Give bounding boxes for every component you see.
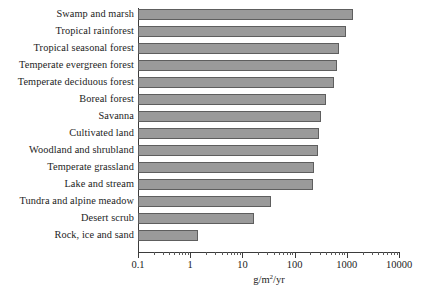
x-tick-minor (394, 252, 395, 255)
category-label: Tropical rainforest (56, 25, 134, 37)
x-tick-minor (326, 252, 327, 255)
x-axis: 0.1110100100010000 (138, 252, 400, 254)
x-tick-minor (292, 252, 293, 255)
x-axis-title-text: g/m2/yr (253, 274, 285, 285)
category-label: Temperate evergreen forest (19, 59, 134, 71)
category-label: Lake and stream (64, 178, 134, 190)
category-label: Temperate grassland (47, 161, 134, 173)
x-tick-minor (182, 252, 183, 255)
x-tick-label: 10 (237, 259, 248, 271)
x-tick-minor (222, 252, 223, 255)
x-tick-major (295, 252, 296, 258)
bar (138, 162, 314, 173)
x-tick-minor (387, 252, 388, 255)
x-tick-major (242, 252, 243, 258)
bar (138, 213, 254, 224)
x-tick-minor (154, 252, 155, 255)
x-tick-minor (274, 252, 275, 255)
bar (138, 77, 334, 88)
bar (138, 111, 321, 122)
x-tick-minor (258, 252, 259, 255)
bar (138, 60, 337, 71)
x-tick-major (399, 252, 400, 258)
category-label: Boreal forest (79, 93, 134, 105)
bar (138, 43, 339, 54)
x-tick-minor (283, 252, 284, 255)
x-tick-minor (174, 252, 175, 255)
bar (138, 230, 198, 241)
category-label: Tropical seasonal forest (34, 42, 134, 54)
category-axis-labels: Swamp and marshTropical rainforestTropic… (0, 0, 136, 252)
category-label: Woodland and shrubland (29, 144, 134, 156)
x-tick-minor (372, 252, 373, 255)
bar (138, 128, 319, 139)
x-axis-title: g/m2/yr (138, 274, 400, 285)
x-tick-minor (397, 252, 398, 255)
x-tick-minor (215, 252, 216, 255)
x-tick-minor (335, 252, 336, 255)
x-tick-major (347, 252, 348, 258)
x-tick-minor (206, 252, 207, 255)
x-tick-minor (227, 252, 228, 255)
x-tick-minor (267, 252, 268, 255)
x-tick-minor (240, 252, 241, 255)
category-label: Savanna (98, 110, 134, 122)
x-tick-minor (310, 252, 311, 255)
bar (138, 26, 346, 37)
category-label: Desert scrub (81, 212, 134, 224)
category-label: Rock, ice and sand (54, 229, 134, 241)
x-tick-minor (231, 252, 232, 255)
productivity-bar-chart: Swamp and marshTropical rainforestTropic… (0, 0, 426, 297)
x-tick-minor (290, 252, 291, 255)
x-tick-label: 10000 (386, 259, 412, 271)
x-tick-minor (179, 252, 180, 255)
x-tick-minor (331, 252, 332, 255)
x-tick-minor (391, 252, 392, 255)
x-tick-minor (234, 252, 235, 255)
x-tick-minor (320, 252, 321, 255)
x-tick-minor (185, 252, 186, 255)
bar (138, 145, 318, 156)
bar (138, 94, 326, 105)
x-tick-minor (237, 252, 238, 255)
x-tick-label: 1000 (336, 259, 357, 271)
x-tick-minor (169, 252, 170, 255)
category-label: Temperate deciduous forest (18, 76, 134, 88)
x-tick-minor (287, 252, 288, 255)
x-tick-minor (339, 252, 340, 255)
bar (138, 179, 313, 190)
x-tick-minor (344, 252, 345, 255)
x-tick-label: 100 (287, 259, 303, 271)
x-tick-minor (363, 252, 364, 255)
plot-area (138, 0, 400, 252)
x-tick-minor (342, 252, 343, 255)
bar (138, 9, 353, 20)
category-label: Swamp and marsh (56, 8, 134, 20)
category-label: Cultivated land (69, 127, 134, 139)
x-tick-label: 0.1 (131, 259, 144, 271)
category-label: Tundra and alpine meadow (20, 195, 134, 207)
x-axis-line (138, 252, 400, 253)
x-tick-minor (188, 252, 189, 255)
x-tick-label: 1 (188, 259, 193, 271)
x-tick-major (138, 252, 139, 258)
x-tick-minor (383, 252, 384, 255)
bar (138, 196, 271, 207)
x-tick-major (190, 252, 191, 258)
x-tick-minor (378, 252, 379, 255)
x-tick-minor (279, 252, 280, 255)
x-tick-minor (163, 252, 164, 255)
